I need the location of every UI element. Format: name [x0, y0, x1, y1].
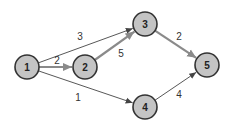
node-4: 4 [133, 95, 157, 119]
node-label: 3 [142, 19, 148, 30]
graph-diagram: 325124 12345 [0, 0, 231, 126]
node-3: 3 [133, 12, 157, 36]
node-label: 2 [82, 62, 88, 73]
node-label: 5 [204, 60, 210, 71]
nodes-group: 12345 [15, 12, 219, 119]
edges-group [38, 28, 196, 102]
edge-weight-1-4: 1 [75, 92, 81, 103]
node-2: 2 [73, 55, 97, 79]
node-label: 4 [142, 102, 148, 113]
edge-weight-2-3: 5 [118, 48, 124, 59]
edge-weight-1-2: 2 [54, 55, 60, 66]
edge-weight-1-3: 3 [77, 31, 83, 42]
node-1: 1 [15, 55, 39, 79]
edge-weight-4-5: 4 [176, 89, 182, 100]
edge-2-3 [95, 32, 135, 60]
edge-weight-3-5: 2 [176, 31, 182, 42]
graph-svg: 325124 12345 [0, 0, 231, 126]
node-label: 1 [24, 62, 30, 73]
node-5: 5 [195, 53, 219, 77]
